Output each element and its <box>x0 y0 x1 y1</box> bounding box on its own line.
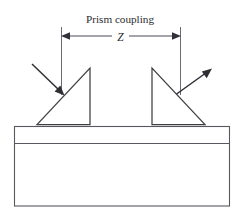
output-coupling-prism <box>152 68 205 125</box>
separation-label: Z <box>117 31 124 43</box>
dimension-arrowhead-left <box>61 32 70 40</box>
diagram-canvas: Prism coupling Z <box>0 0 240 217</box>
outgoing-ray-arrowhead <box>202 69 212 79</box>
incident-light-ray <box>32 64 60 91</box>
dimension-arrowhead-right <box>172 32 181 40</box>
prism-coupling-diagram: Prism coupling Z <box>0 0 240 217</box>
diagram-title: Prism coupling <box>86 13 154 25</box>
substrate-block <box>15 127 230 207</box>
